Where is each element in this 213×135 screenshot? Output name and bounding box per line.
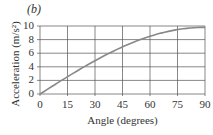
x-tick-label: 0 (30, 99, 50, 110)
y-tick-label: 10 (22, 20, 34, 31)
x-tick-label: 15 (58, 99, 78, 110)
grid-lines (37, 26, 205, 96)
y-axis-label: Acceleration (m/s²) (9, 19, 21, 109)
y-tick-label: 4 (22, 61, 34, 72)
y-tick-label: 0 (22, 88, 34, 99)
x-tick-label: 75 (168, 99, 188, 110)
acceleration-vs-angle-chart: (b) Acceleration (m/s²) Angle (degrees) … (0, 0, 213, 135)
y-tick-label: 8 (22, 34, 34, 45)
y-tick-label: 2 (22, 74, 34, 85)
x-tick-label: 90 (195, 99, 213, 110)
x-tick-label: 30 (85, 99, 105, 110)
x-tick-label: 45 (113, 99, 133, 110)
x-axis-label: Angle (degrees) (40, 114, 205, 126)
y-tick-label: 6 (22, 47, 34, 58)
x-tick-label: 60 (140, 99, 160, 110)
